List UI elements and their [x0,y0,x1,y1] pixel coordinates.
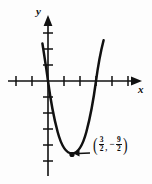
vertex-y-fraction: 9 2 [116,136,122,153]
parabola-figure: y x ( 3 2 , − 9 2 ) [0,0,152,184]
open-paren: ( [93,137,98,153]
y-axis-arrowhead [44,15,53,26]
vertex-point-marker [69,152,74,157]
x-axis-label: x [138,84,144,95]
y-axis-label: y [36,6,41,17]
graph-canvas [0,0,152,184]
vertex-x-numerator: 3 [99,136,105,144]
vertex-x-denominator: 2 [99,144,105,153]
vertex-y-minus-sign: − [109,140,114,149]
vertex-coordinate-label: ( 3 2 , − 9 2 ) [92,136,128,153]
vertex-x-fraction: 3 2 [99,136,105,153]
vertex-y-denominator: 2 [116,144,122,153]
close-paren: ) [123,137,128,153]
vertex-comma: , [105,144,107,153]
vertex-y-numerator: 9 [116,136,122,144]
